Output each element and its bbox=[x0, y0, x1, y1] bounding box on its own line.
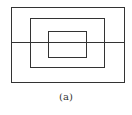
inner-rectangle bbox=[49, 32, 87, 58]
nested-rectangles-figure: (a) bbox=[0, 0, 132, 115]
figure-caption: (a) bbox=[0, 91, 132, 102]
